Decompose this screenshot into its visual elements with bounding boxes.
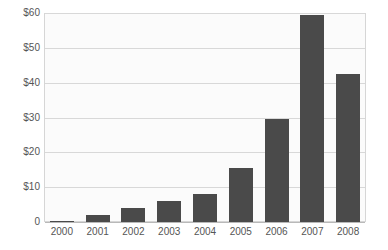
bar-chart: $60 $50 $40 $30 $20 $10 0 20002001200220… [0, 0, 388, 250]
x-tick-label: 2006 [265, 226, 287, 238]
x-tick-label: 2008 [337, 226, 359, 238]
bar-slot [116, 13, 152, 222]
bar-slot [187, 13, 223, 222]
y-tick-label: $20 [0, 147, 40, 157]
x-axis: 200020012002200320042005200620072008 [44, 226, 366, 246]
y-tick-label: 0 [0, 217, 40, 227]
bar[interactable] [121, 208, 145, 222]
bar[interactable] [300, 15, 324, 222]
bar[interactable] [193, 194, 217, 222]
bar-slot [259, 13, 295, 222]
gridline [45, 222, 365, 223]
y-tick-label: $50 [0, 43, 40, 53]
bar-slot [151, 13, 187, 222]
bar-slot [44, 13, 80, 222]
y-tick-label: $30 [0, 113, 40, 123]
y-axis: $60 $50 $40 $30 $20 $10 0 [0, 0, 40, 250]
x-tick-label: 2000 [51, 226, 73, 238]
bar[interactable] [229, 168, 253, 222]
bar[interactable] [157, 201, 181, 222]
x-tick-label: 2003 [158, 226, 180, 238]
bar[interactable] [265, 119, 289, 222]
bar-slot [294, 13, 330, 222]
bar[interactable] [336, 74, 360, 222]
x-tick-label: 2007 [301, 226, 323, 238]
bars-layer [44, 13, 366, 222]
x-tick-label: 2004 [194, 226, 216, 238]
y-tick-label: $40 [0, 78, 40, 88]
y-tick-label: $10 [0, 182, 40, 192]
y-tick-label: $60 [0, 8, 40, 18]
bar[interactable] [86, 215, 110, 222]
bar-slot [80, 13, 116, 222]
x-tick-label: 2001 [87, 226, 109, 238]
bar-slot [223, 13, 259, 222]
bar[interactable] [50, 221, 74, 222]
x-tick-label: 2005 [230, 226, 252, 238]
x-tick-label: 2002 [122, 226, 144, 238]
bar-slot [330, 13, 366, 222]
